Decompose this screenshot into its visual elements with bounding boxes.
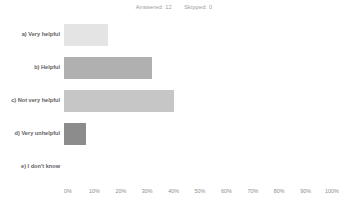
axis-tick-label: 30% bbox=[142, 188, 153, 194]
bar-track bbox=[64, 51, 348, 84]
axis-tick-label: 100% bbox=[325, 188, 339, 194]
axis-tick-label: 70% bbox=[247, 188, 258, 194]
plot-area: a) Very helpfulb) Helpfulc) Not very hel… bbox=[0, 18, 348, 183]
category-label: a) Very helpful bbox=[0, 31, 64, 38]
axis-tick-label: 50% bbox=[195, 188, 206, 194]
bar bbox=[64, 90, 174, 112]
bar-track bbox=[64, 18, 348, 51]
bar-row: d) Very unhelpful bbox=[0, 117, 348, 150]
bar-track bbox=[64, 117, 348, 150]
axis-tick-label: 10% bbox=[89, 188, 100, 194]
category-label: c) Not very helpful bbox=[0, 97, 64, 104]
axis-tick-label: 20% bbox=[115, 188, 126, 194]
axis-tick-label: 90% bbox=[300, 188, 311, 194]
answered-count: Answered: 12 bbox=[136, 4, 172, 10]
axis-tick-label: 60% bbox=[221, 188, 232, 194]
bar-row: e) I don't know bbox=[0, 150, 348, 183]
category-label: d) Very unhelpful bbox=[0, 130, 64, 137]
bar bbox=[64, 57, 152, 79]
axis-tick-label: 40% bbox=[168, 188, 179, 194]
bar bbox=[64, 24, 108, 46]
x-axis: 0%10%20%30%40%50%60%70%80%90%100% bbox=[68, 188, 332, 200]
survey-bar-chart: Answered: 12 Skipped: 0 a) Very helpfulb… bbox=[0, 0, 348, 216]
bar-track bbox=[64, 84, 348, 117]
bar-row: a) Very helpful bbox=[0, 18, 348, 51]
bar-rows: a) Very helpfulb) Helpfulc) Not very hel… bbox=[0, 18, 348, 183]
axis-tick-label: 0% bbox=[64, 188, 72, 194]
bar-row: c) Not very helpful bbox=[0, 84, 348, 117]
bar-row: b) Helpful bbox=[0, 51, 348, 84]
bar-track bbox=[64, 150, 348, 183]
axis-tick-label: 80% bbox=[274, 188, 285, 194]
category-label: b) Helpful bbox=[0, 64, 64, 71]
category-label: e) I don't know bbox=[0, 163, 64, 170]
bar bbox=[64, 123, 86, 145]
skipped-count: Skipped: 0 bbox=[184, 4, 212, 10]
response-summary: Answered: 12 Skipped: 0 bbox=[0, 4, 348, 10]
